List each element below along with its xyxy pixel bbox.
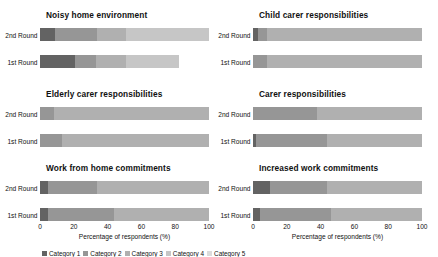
panel-title: Noisy home environment (46, 10, 147, 20)
legend-swatch-icon (42, 251, 47, 256)
x-axis-tick: 0 (38, 223, 42, 230)
bar-row: 2nd Round (253, 28, 422, 41)
x-axis-tick: 60 (138, 223, 145, 230)
bar-segment[interactable] (40, 181, 48, 194)
bar-segment[interactable] (270, 181, 327, 194)
bar-segment[interactable] (40, 134, 62, 147)
stacked-bar[interactable] (40, 28, 209, 41)
stacked-bar[interactable] (40, 181, 209, 194)
stacked-bar[interactable] (253, 107, 422, 120)
bar-segment[interactable] (48, 208, 114, 221)
bar-segment[interactable] (40, 28, 55, 41)
legend-label: Category 1 (49, 250, 80, 257)
bar-row-label: 2nd Round (218, 184, 250, 191)
bar-row: 1st Round (253, 134, 422, 147)
bar-segment[interactable] (126, 28, 209, 41)
bar-row-label: 2nd Round (218, 31, 250, 38)
bar-row: 1st Round (40, 208, 209, 221)
bar-row: 2nd Round (40, 181, 209, 194)
legend-swatch-icon (83, 251, 88, 256)
panel-title: Elderly carer responsibilities (46, 89, 162, 99)
x-axis-tick: 100 (416, 223, 427, 230)
stacked-bar[interactable] (253, 208, 422, 221)
bar-segment[interactable] (54, 107, 209, 120)
x-axis-title: Percentage of respondents (%) (79, 233, 170, 240)
bar-row-label: 1st Round (7, 58, 37, 65)
figure-root: Noisy home environment2nd Round1st Round… (0, 0, 438, 257)
legend-label: Category 2 (90, 250, 121, 257)
bar-row-label: 1st Round (7, 137, 37, 144)
bar-segment[interactable] (75, 55, 95, 68)
legend-item[interactable]: Category 4 (166, 250, 204, 257)
bar-row-label: 1st Round (220, 211, 250, 218)
bar-segment[interactable] (253, 208, 260, 221)
bar-row-label: 1st Round (220, 58, 250, 65)
bar-row: 1st Round (253, 208, 422, 221)
x-axis-tick: 0 (251, 223, 255, 230)
stacked-bar[interactable] (40, 208, 209, 221)
panel-title: Carer responsibilities (259, 89, 346, 99)
bar-segment[interactable] (267, 28, 422, 41)
legend-swatch-icon (166, 251, 171, 256)
bar-row-label: 2nd Round (218, 110, 250, 117)
bar-segment[interactable] (260, 208, 331, 221)
stacked-bar[interactable] (40, 107, 209, 120)
stacked-bar[interactable] (253, 55, 422, 68)
bar-segment[interactable] (96, 55, 126, 68)
bar-row: 2nd Round (40, 28, 209, 41)
panel-title: Increased work commitments (259, 163, 378, 173)
bar-segment[interactable] (55, 28, 97, 41)
bar-segment[interactable] (253, 181, 270, 194)
bar-segment[interactable] (317, 107, 422, 120)
x-axis-title: Percentage of respondents (%) (292, 233, 383, 240)
bar-row-label: 1st Round (220, 137, 250, 144)
x-axis-tick: 40 (104, 223, 111, 230)
legend-label: Category 5 (214, 250, 245, 257)
bar-segment[interactable] (327, 134, 422, 147)
legend-item[interactable]: Category 3 (125, 250, 163, 257)
stacked-bar[interactable] (253, 181, 422, 194)
x-axis-tick: 100 (203, 223, 214, 230)
bar-segment[interactable] (97, 28, 126, 41)
bar-segment[interactable] (126, 55, 178, 68)
legend-item[interactable]: Category 5 (207, 250, 245, 257)
bar-segment[interactable] (97, 181, 209, 194)
bar-segment[interactable] (258, 28, 266, 41)
x-axis-tick: 80 (172, 223, 179, 230)
bar-segment[interactable] (40, 107, 54, 120)
x-axis-tick: 20 (70, 223, 77, 230)
bar-row: 1st Round (253, 55, 422, 68)
stacked-bar[interactable] (253, 134, 422, 147)
stacked-bar[interactable] (40, 134, 209, 147)
x-axis-tick: 80 (385, 223, 392, 230)
bar-row: 2nd Round (253, 107, 422, 120)
bar-segment[interactable] (40, 55, 75, 68)
bar-row-label: 1st Round (7, 211, 37, 218)
legend-label: Category 3 (132, 250, 163, 257)
x-axis-tick: 60 (351, 223, 358, 230)
bar-row: 1st Round (40, 55, 209, 68)
bar-segment[interactable] (253, 107, 317, 120)
bar-segment[interactable] (48, 181, 97, 194)
bar-segment[interactable] (256, 134, 327, 147)
bar-row: 1st Round (40, 134, 209, 147)
bar-segment[interactable] (331, 208, 422, 221)
stacked-bar[interactable] (253, 28, 422, 41)
panel-title: Work from home commitments (46, 163, 171, 173)
x-axis-tick: 20 (283, 223, 290, 230)
bar-segment[interactable] (114, 208, 209, 221)
bar-segment[interactable] (40, 208, 48, 221)
bar-segment[interactable] (62, 134, 209, 147)
bar-row-label: 2nd Round (5, 184, 37, 191)
legend-item[interactable]: Category 2 (83, 250, 121, 257)
legend-swatch-icon (207, 251, 212, 256)
stacked-bar[interactable] (40, 55, 209, 68)
x-axis: 020406080100Percentage of respondents (%… (253, 223, 422, 245)
bar-segment[interactable] (327, 181, 422, 194)
bar-segment[interactable] (267, 55, 422, 68)
bar-segment[interactable] (253, 55, 267, 68)
x-axis: 020406080100Percentage of respondents (%… (40, 223, 209, 245)
legend-item[interactable]: Category 1 (42, 250, 80, 257)
x-axis-tick: 40 (317, 223, 324, 230)
bar-row: 2nd Round (40, 107, 209, 120)
